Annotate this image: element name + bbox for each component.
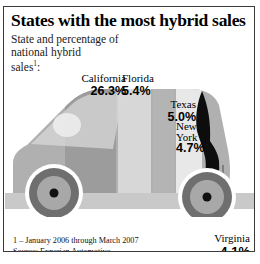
subtitle-line-1: State and percentage of — [11, 33, 119, 45]
infographic-hybrid-sales: States with the most hybrid sales State … — [0, 0, 260, 264]
band-florida — [118, 45, 151, 217]
label-name-california: California — [66, 73, 126, 85]
label-name-texas: Texas — [152, 99, 196, 111]
car-chart-scene — [5, 45, 255, 217]
windshield-highlight — [53, 113, 81, 137]
data-label-florida: Florida 5.4% — [122, 73, 166, 98]
label-value-newyork: 4.7% — [176, 142, 204, 156]
footnote-note: 1 – January 2006 through March 2007 — [13, 235, 193, 246]
data-label-california: California 26.3% — [66, 73, 126, 98]
label-value-florida: 5.4% — [122, 85, 166, 99]
label-value-california: 26.3% — [66, 85, 126, 99]
label-name-newyork-line1: New — [176, 121, 204, 132]
car-silhouette-icon — [5, 45, 255, 217]
footnotes: 1 – January 2006 through March 2007 Sour… — [13, 235, 193, 252]
label-name-florida: Florida — [122, 73, 166, 85]
band-texas — [153, 45, 174, 217]
data-label-newyork: New York 4.7% — [176, 121, 204, 156]
graphic-frame: States with the most hybrid sales State … — [3, 6, 255, 252]
page-title: States with the most hybrid sales — [11, 11, 251, 30]
footnote-source: Source: Experian Automotive — [13, 246, 193, 252]
